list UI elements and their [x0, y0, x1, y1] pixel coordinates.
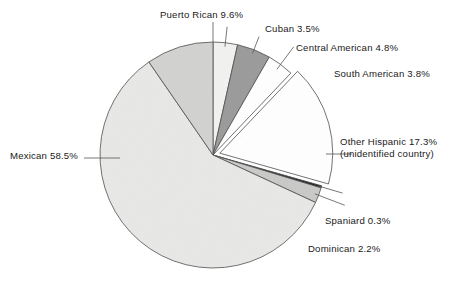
slice-label-cuban: Cuban 3.5% [265, 23, 320, 35]
leader-line-spaniard [318, 186, 343, 193]
slice-label-other-hispanic: Other Hispanic 17.3% (unidentified count… [340, 136, 437, 159]
slice-label-spaniard: Spaniard 0.3% [325, 215, 390, 227]
leader-line-dominican [315, 194, 345, 205]
slice-label-puerto-rican: Puerto Rican 9.6% [160, 9, 243, 21]
pie-chart: Puerto Rican 9.6% Cuban 3.5% Central Ame… [0, 0, 454, 288]
slice-label-south-american: South American 3.8% [334, 68, 430, 80]
pie-slices-group [100, 42, 333, 268]
slice-label-other-hispanic-main: Other Hispanic 17.3% [340, 136, 437, 147]
slice-label-dominican: Dominican 2.2% [308, 243, 381, 255]
slice-label-mexican: Mexican 58.5% [10, 150, 78, 162]
slice-label-other-hispanic-sub: (unidentified country) [340, 148, 437, 160]
slice-label-central-american: Central American 4.8% [296, 42, 398, 54]
leader-line-south-american [277, 47, 294, 69]
